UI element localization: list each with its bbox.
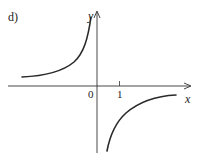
y-axis-label: y (88, 10, 93, 22)
panel-label: d) (8, 11, 18, 23)
origin-label: 0 (88, 89, 94, 100)
function-graph: d) y x 0 1 (0, 0, 197, 160)
graph-canvas (0, 0, 197, 160)
curve-right-branch (107, 95, 176, 151)
tick-label-1: 1 (117, 89, 123, 100)
curve-left-branch (22, 17, 91, 77)
x-axis-label: x (185, 93, 190, 105)
